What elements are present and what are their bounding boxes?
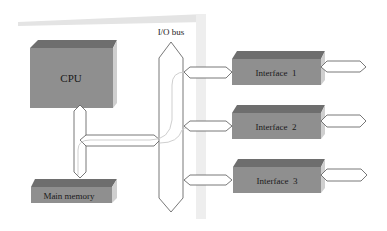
interface-2-block: Interface 2 [232,105,325,139]
bus-interface2-arrow [184,121,232,131]
interface-2-label: Interface 2 [256,122,297,132]
interface-3-label: Interface 3 [257,176,298,186]
interface-3-block: Interface 3 [233,159,325,193]
cpu-block: CPU [30,40,117,108]
interface-1-block: Interface 1 [232,51,325,85]
bus-interface1-arrow [184,67,232,78]
interface-1-label: Interface 1 [256,68,297,78]
main-memory-label: Main memory [43,191,95,201]
computer-io-diagram: CPU I/O bus Interface 1 Interface 2 Inte… [0,0,387,231]
cpu-label: CPU [60,72,81,84]
interface-1-output-arrow [321,61,366,72]
backdrop-top-band [18,14,205,26]
interface-3-output-arrow [321,169,367,181]
bus-interface3-arrow [184,175,232,185]
io-bus-label: I/O bus [158,27,185,37]
backdrop-right-band [196,14,206,219]
interface-2-output-arrow [321,115,366,127]
main-memory-block: Main memory [31,179,117,203]
